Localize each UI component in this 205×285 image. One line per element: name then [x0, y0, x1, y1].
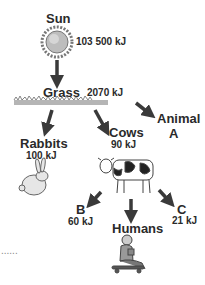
sun-label: Sun	[46, 12, 71, 25]
arrow-cows-to-c	[159, 190, 170, 202]
arrow-grass-to-animal-a	[136, 103, 150, 114]
cows-label: Cows	[109, 126, 144, 139]
cows-energy: 90 kJ	[111, 140, 136, 150]
sun-icon	[42, 27, 72, 57]
human-icon	[112, 235, 145, 273]
humans-label: Humans	[112, 222, 163, 235]
cow-icon	[98, 158, 153, 193]
b-label: B	[76, 203, 85, 216]
rabbit-icon	[19, 158, 48, 195]
grass-label: Grass	[43, 86, 80, 99]
arrow-grass-to-cows	[95, 110, 106, 130]
b-energy: 60 kJ	[68, 217, 93, 227]
animal-a-label: Animal	[157, 112, 200, 125]
c-energy: 21 kJ	[172, 216, 197, 226]
arrow-cows-to-b	[91, 192, 101, 203]
rabbits-energy: 100 kJ	[26, 151, 57, 161]
animal-a-letter: A	[169, 127, 178, 140]
sun-energy: 103 500 kJ	[76, 37, 126, 47]
rabbits-label: Rabbits	[20, 137, 68, 150]
grass-energy: 2070 kJ	[87, 88, 123, 98]
answer-blank: ......	[1, 246, 18, 256]
arrow-grass-to-rabbits	[46, 110, 52, 130]
